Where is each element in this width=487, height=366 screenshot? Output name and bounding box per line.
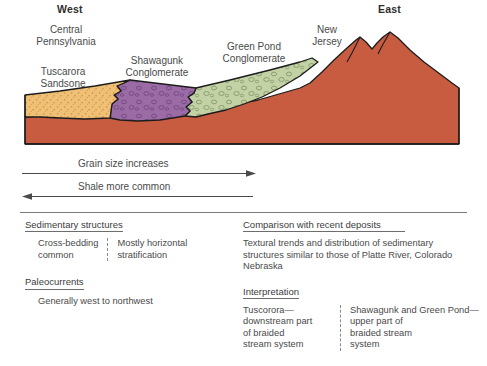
- spacer: [25, 261, 230, 276]
- trend-arrows-svg: [0, 158, 487, 208]
- interpretation-col-2: Shawagunk and Green Pond— upper part of …: [350, 305, 479, 351]
- unit-label-new-jersey: New Jersey: [292, 24, 362, 47]
- trend-arrows-block: Grain size increases Shale more common: [0, 158, 487, 208]
- sedimentary-structures-col-1: Cross-bedding common: [38, 238, 98, 261]
- comparison-recent-deposits-text: Textural trends and distribution of sedi…: [243, 238, 483, 272]
- grain-size-arrow: [22, 170, 256, 177]
- shale-common-arrow: [22, 193, 253, 200]
- right-text-panel: Comparison with recent deposits Textural…: [243, 219, 483, 351]
- direction-label-east: East: [378, 3, 401, 15]
- direction-label-west: West: [57, 3, 83, 15]
- paleocurrents-text: Generally west to northwest: [25, 296, 230, 307]
- heading-paleocurrents: Paleocurrents: [25, 276, 84, 289]
- spacer: [243, 273, 483, 286]
- panel-divider-rule: [20, 212, 467, 213]
- heading-sedimentary-structures: Sedimentary structures: [25, 219, 123, 232]
- left-text-panel: Sedimentary structures Cross-bedding com…: [25, 219, 230, 307]
- unit-label-tuscarora-sandstone: Tuscarora Sandsone: [18, 66, 108, 89]
- unit-label-green-pond-conglomerate: Green Pond Conglomerate: [204, 41, 304, 64]
- unit-label-shawangunk-conglomerate: Shawagunk Conglomerate: [105, 55, 209, 78]
- heading-comparison-with-recent-deposits: Comparison with recent deposits: [243, 219, 405, 232]
- shawangunk-conglomerate-unit: [110, 80, 196, 121]
- unit-label-central-pennsylvania: Central Pennsylvania: [18, 24, 114, 47]
- interpretation-col-1: Tuscorora— downstream part of braided st…: [243, 305, 331, 351]
- column-divider: [107, 238, 108, 261]
- heading-interpretation: Interpretation: [243, 286, 299, 299]
- geologic-cross-section-figure: West East Central Pennsylvania Tuscarora…: [0, 0, 487, 366]
- sedimentary-structures-col-2: Mostly horizontal stratification: [117, 238, 187, 261]
- column-divider: [340, 305, 341, 351]
- interpretation-columns: Tuscorora— downstream part of braided st…: [243, 305, 483, 351]
- sedimentary-structures-columns: Cross-bedding common Mostly horizontal s…: [25, 238, 230, 261]
